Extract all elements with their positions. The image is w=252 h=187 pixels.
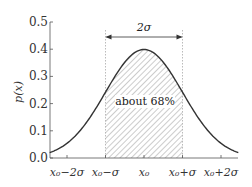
x-tick-label: x₀ (139, 166, 150, 179)
y-tick-label: 0.0 (29, 151, 48, 165)
y-axis-label: p(x) (12, 81, 25, 103)
percentage-label: about 68% (115, 95, 175, 108)
two-sigma-label: 2σ (136, 21, 152, 34)
y-tick-label: 0.2 (29, 97, 48, 111)
y-tick-label: 0.4 (29, 42, 48, 56)
x-tick-label: x₀−2σ (50, 166, 85, 179)
y-tick-labels: 0.00.10.20.30.40.5 (29, 15, 48, 165)
two-sigma-arrow (106, 35, 183, 40)
x-tick-labels: x₀−2σx₀−σx₀x₀+σx₀+2σ (50, 166, 239, 179)
x-tick-label: x₀+σ (169, 166, 197, 179)
x-tick-label: x₀−σ (92, 166, 120, 179)
x-tick-label: x₀+2σ (204, 166, 239, 179)
y-tick-label: 0.3 (29, 69, 48, 83)
y-tick-label: 0.5 (29, 15, 48, 29)
normal-distribution-chart: 2σ about 68% 0.00.10.20.30.40.5 x₀−2σx₀−… (0, 0, 252, 187)
y-tick-label: 0.1 (29, 124, 48, 138)
